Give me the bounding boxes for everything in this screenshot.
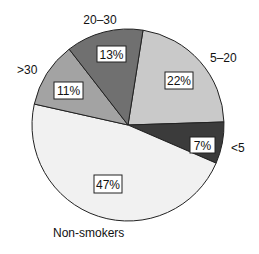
category-non-smokers: Non-smokers <box>53 226 124 240</box>
pct-20-30: 13% <box>99 48 123 62</box>
slice-label-5-20: 22% <box>165 72 193 89</box>
pie-chart: 22% 13% 11% 7% 47% 20–30 5–20 >30 <5 Non… <box>0 0 259 254</box>
slice-label-under-5: 7% <box>190 137 215 153</box>
category-over-30: >30 <box>17 63 38 77</box>
slice-label-20-30: 13% <box>97 46 126 62</box>
category-20-30: 20–30 <box>83 13 117 27</box>
category-under-5: <5 <box>231 141 245 155</box>
pct-non-smokers: 47% <box>96 178 120 192</box>
pie-slices <box>32 29 224 221</box>
slice-label-non-smokers: 47% <box>94 175 122 193</box>
slice-label-over-30: 11% <box>54 82 83 99</box>
pct-5-20: 22% <box>167 74 191 88</box>
pct-under-5: 7% <box>194 139 212 153</box>
pct-over-30: 11% <box>57 84 80 98</box>
category-5-20: 5–20 <box>210 51 237 65</box>
